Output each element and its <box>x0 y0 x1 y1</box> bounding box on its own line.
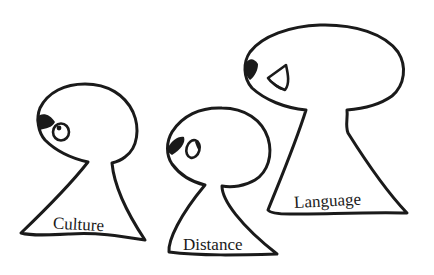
figure-culture-label: Culture <box>53 214 105 236</box>
figure-culture: Culture <box>21 84 145 240</box>
figure-culture-eye-icon <box>53 124 69 141</box>
figure-language-body <box>245 25 407 214</box>
figure-language-label: Language <box>294 190 362 212</box>
figure-distance-body <box>168 108 278 255</box>
figure-language: Language <box>245 25 407 214</box>
figure-distance: Distance <box>168 108 278 255</box>
illustration-canvas: Culture Distance Language <box>0 0 434 275</box>
figure-distance-label: Distance <box>183 235 242 254</box>
figure-culture-pupil-icon <box>57 126 62 131</box>
